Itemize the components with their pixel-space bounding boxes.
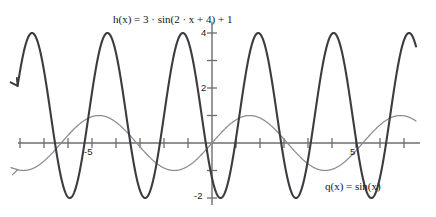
x-tick-label-negative-5: -5 [84, 146, 92, 157]
x-tick-label-positive-5: 5 [350, 146, 355, 157]
y-tick-label-4: 4 [201, 27, 206, 38]
function-plot-figure: h(x) = 3 · sin(2 · x + 4) + 1 q(x) = sin… [0, 0, 436, 217]
equation-label-q-text: q(x) = sin(x) [325, 180, 381, 192]
curve-q-arrowhead-icon [11, 168, 18, 175]
equation-label-q: q(x) = sin(x) [325, 180, 381, 192]
curve-h-arrowhead-icon [11, 78, 18, 86]
y-tick-label-negative-2: -2 [194, 190, 202, 201]
equation-label-h: h(x) = 3 · sin(2 · x + 4) + 1 [113, 13, 232, 25]
equation-label-h-text: h(x) = 3 · sin(2 · x + 4) + 1 [113, 13, 232, 25]
y-tick-label-2: 2 [201, 82, 206, 93]
